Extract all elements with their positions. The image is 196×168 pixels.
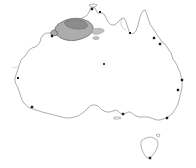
marker-darwin[interactable]: [91, 8, 93, 10]
marker-alice-springs[interactable]: [103, 63, 105, 65]
marker-carnarvon[interactable]: [17, 77, 19, 79]
marker-hobart[interactable]: [149, 157, 151, 159]
marker-arnhem-coast[interactable]: [99, 11, 101, 13]
map-canvas: [0, 0, 196, 168]
marker-gulf-coast[interactable]: [129, 32, 131, 34]
island-kangaroo: [114, 117, 121, 119]
marker-melbourne[interactable]: [166, 117, 168, 119]
australia-map-svg: [0, 0, 196, 168]
marker-sydney[interactable]: [177, 89, 179, 91]
island-flinders: [156, 134, 160, 137]
marker-cairns[interactable]: [153, 37, 155, 39]
marker-townsville[interactable]: [159, 43, 161, 45]
australia-mainland-coastline: [15, 7, 182, 120]
distribution-range-patch-small: [93, 36, 99, 39]
marker-brisbane[interactable]: [181, 79, 183, 81]
island-tasmania: [141, 137, 158, 158]
island-melville: [89, 4, 97, 7]
marker-adelaide[interactable]: [122, 113, 124, 115]
marker-perth[interactable]: [31, 106, 33, 108]
marker-broome[interactable]: [51, 35, 53, 37]
